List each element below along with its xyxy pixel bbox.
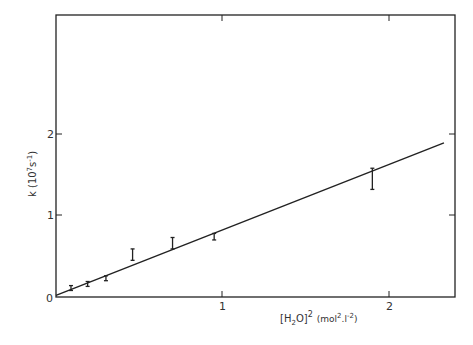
origin-label: 0: [46, 292, 53, 305]
fit-line: [56, 143, 444, 295]
y-tick-label-2: 2: [47, 128, 54, 141]
x-tick-label-2: 2: [386, 300, 393, 313]
x-axis-label: [H2O]2(mol2.l-2): [280, 310, 357, 327]
plot-frame: [56, 15, 455, 297]
regression-line: [56, 143, 444, 295]
y-tick-label-1: 1: [47, 209, 54, 222]
error-bar: [171, 238, 175, 249]
y-ticks: [56, 134, 455, 215]
x-tick-label-1: 1: [219, 300, 226, 313]
svg-text:k (107s-1): k (107s-1): [26, 151, 38, 197]
y-axis-label: k (107s-1): [26, 151, 38, 197]
x-ticks: [222, 15, 389, 297]
chart: 0 1 2 1 2 k (107s-1) [H2O]2(mol2.l-2): [0, 0, 473, 345]
error-bar: [131, 249, 135, 260]
